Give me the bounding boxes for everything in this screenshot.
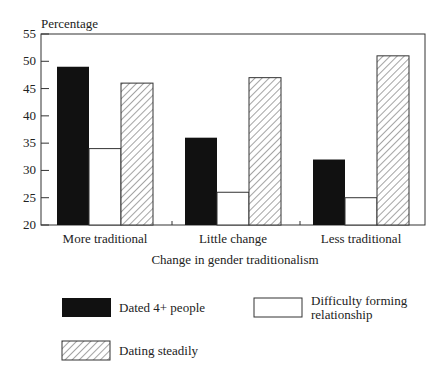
x-tick-label: Less traditional xyxy=(321,231,402,246)
bar-difficulty-forming xyxy=(89,149,121,225)
legend-label-difficulty-2: relationship xyxy=(311,307,372,322)
legend-swatch-dating-steadily xyxy=(62,341,110,360)
legend-label-dated: Dated 4+ people xyxy=(119,300,205,315)
legend: Dated 4+ people Difficulty forming relat… xyxy=(62,293,408,360)
bar-dating-steadily xyxy=(377,56,409,225)
y-tick-label: 25 xyxy=(23,190,36,205)
x-axis-tick-labels: More traditionalLittle changeLess tradit… xyxy=(63,231,402,246)
bars xyxy=(57,56,409,225)
legend-label-dating-steadily: Dating steadily xyxy=(119,343,199,358)
bar-dated-4-plus xyxy=(57,67,89,225)
legend-label-difficulty-1: Difficulty forming xyxy=(311,293,408,308)
y-tick-label: 40 xyxy=(23,108,36,123)
chart-canvas: Percentage 2025303540455055 More traditi… xyxy=(0,0,445,374)
y-tick-label: 50 xyxy=(23,53,36,68)
legend-swatch-difficulty xyxy=(254,298,302,317)
y-axis-label: Percentage xyxy=(41,16,98,31)
bar-dated-4-plus xyxy=(185,138,217,225)
bar-dated-4-plus xyxy=(313,160,345,225)
y-tick-label: 55 xyxy=(23,26,36,41)
x-tick-label: More traditional xyxy=(63,231,148,246)
y-tick-label: 20 xyxy=(23,217,36,232)
bar-dating-steadily xyxy=(121,83,153,225)
x-tick-label: Little change xyxy=(199,231,267,246)
legend-swatch-dated xyxy=(62,298,111,317)
y-tick-label: 30 xyxy=(23,162,36,177)
bar-difficulty-forming xyxy=(217,192,249,225)
bar-dating-steadily xyxy=(249,78,281,225)
y-tick-label: 45 xyxy=(23,81,36,96)
y-tick-label: 35 xyxy=(23,135,36,150)
bar-difficulty-forming xyxy=(345,198,377,225)
x-axis-label: Change in gender traditionalism xyxy=(151,252,318,267)
y-axis-ticks: 2025303540455055 xyxy=(23,26,49,232)
